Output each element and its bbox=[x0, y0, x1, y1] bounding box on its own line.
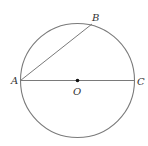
label-o: O bbox=[73, 86, 81, 97]
center-point-o bbox=[76, 79, 80, 83]
label-a: A bbox=[10, 75, 18, 86]
circle-diagram: A B C O bbox=[0, 0, 148, 146]
label-b: B bbox=[91, 12, 99, 23]
chord-ab bbox=[21, 24, 93, 81]
label-c: C bbox=[137, 76, 145, 87]
